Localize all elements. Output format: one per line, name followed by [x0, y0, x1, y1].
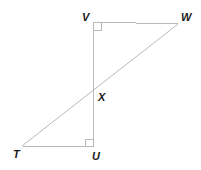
- right-angle-marker-v: [93, 22, 101, 30]
- vertex-label-u: U: [92, 151, 100, 162]
- segment-tw: [22, 24, 178, 146]
- geometry-diagram-canvas: [0, 0, 201, 170]
- segment-tu: [22, 146, 93, 147]
- vertex-label-v: V: [82, 12, 89, 23]
- right-angle-marker-u: [85, 139, 93, 147]
- vertex-label-t: T: [13, 149, 20, 160]
- vertex-label-w: W: [181, 12, 191, 23]
- segment-vw: [93, 22, 178, 24]
- geometry-figure: V W X T U: [0, 0, 201, 170]
- vertex-label-x: X: [98, 92, 105, 103]
